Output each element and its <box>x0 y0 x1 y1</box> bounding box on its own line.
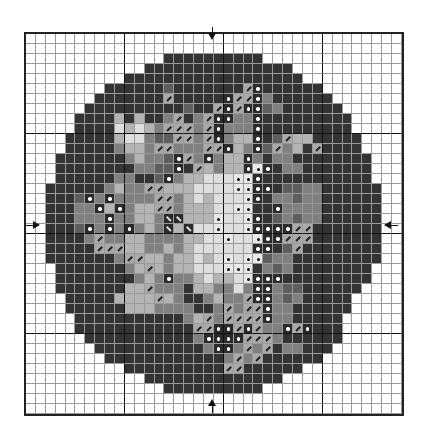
stitch-cell <box>95 174 105 184</box>
stitch-cell <box>253 304 263 314</box>
stitch-cell <box>382 244 392 254</box>
stitch-cell <box>135 194 145 204</box>
stitch-cell <box>135 144 145 154</box>
stitch-cell <box>145 204 155 214</box>
stitch-cell <box>382 404 392 414</box>
stitch-cell <box>174 44 184 54</box>
stitch-cell <box>244 364 254 374</box>
stitch-cell <box>26 404 36 414</box>
stitch-cell <box>105 304 115 314</box>
stitch-cell <box>372 54 382 64</box>
stitch-cell <box>36 404 46 414</box>
stitch-cell <box>26 244 36 254</box>
stitch-cell <box>105 254 115 264</box>
stitch-cell <box>263 284 273 294</box>
stitch-cell <box>75 64 85 74</box>
stitch-cell <box>352 234 362 244</box>
stitch-cell <box>174 124 184 134</box>
stitch-cell <box>204 104 214 114</box>
stitch-cell <box>125 394 135 404</box>
stitch-cell <box>343 284 353 294</box>
stitch-cell <box>224 304 234 314</box>
stitch-cell <box>26 284 36 294</box>
stitch-cell <box>313 144 323 154</box>
stitch-cell <box>56 94 66 104</box>
stitch-cell <box>392 244 402 254</box>
stitch-cell <box>56 64 66 74</box>
stitch-cell <box>253 264 263 274</box>
stitch-cell <box>372 404 382 414</box>
stitch-cell <box>283 34 293 44</box>
stitch-cell <box>224 44 234 54</box>
stitch-cell <box>194 144 204 154</box>
stitch-cell <box>174 244 184 254</box>
stitch-cell <box>372 204 382 214</box>
stitch-cell <box>313 204 323 214</box>
stitch-cell <box>283 264 293 274</box>
stitch-cell <box>46 224 56 234</box>
stitch-cell <box>46 64 56 74</box>
stitch-cell <box>164 344 174 354</box>
stitch-cell <box>263 334 273 344</box>
stitch-cell <box>234 54 244 64</box>
stitch-cell <box>293 374 303 384</box>
stitch-cell <box>26 204 36 214</box>
stitch-cell <box>214 274 224 284</box>
stitch-cell <box>46 204 56 214</box>
stitch-cell <box>214 114 224 124</box>
stitch-cell <box>333 214 343 224</box>
stitch-cell <box>253 394 263 404</box>
stitch-cell <box>293 204 303 214</box>
stitch-cell <box>95 64 105 74</box>
stitch-cell <box>253 164 263 174</box>
stitch-cell <box>214 254 224 264</box>
stitch-cell <box>135 384 145 394</box>
stitch-cell <box>333 244 343 254</box>
stitch-cell <box>263 404 273 414</box>
stitch-cell <box>273 94 283 104</box>
stitch-cell <box>333 204 343 214</box>
stitch-cell <box>303 354 313 364</box>
stitch-cell <box>174 294 184 304</box>
stitch-cell <box>244 304 254 314</box>
stitch-cell <box>323 294 333 304</box>
stitch-cell <box>164 64 174 74</box>
stitch-cell <box>372 244 382 254</box>
stitch-cell <box>323 224 333 234</box>
stitch-cell <box>26 394 36 404</box>
stitch-cell <box>125 254 135 264</box>
stitch-cell <box>56 114 66 124</box>
center-arrow-bottom-icon <box>208 399 216 406</box>
stitch-cell <box>115 184 125 194</box>
stitch-cell <box>145 194 155 204</box>
stitch-cell <box>343 224 353 234</box>
stitch-cell <box>75 364 85 374</box>
stitch-cell <box>155 354 165 364</box>
stitch-cell <box>293 184 303 194</box>
stitch-cell <box>273 334 283 344</box>
stitch-cell <box>56 384 66 394</box>
stitch-cell <box>155 214 165 224</box>
stitch-cell <box>194 314 204 324</box>
stitch-cell <box>184 394 194 404</box>
stitch-cell <box>392 64 402 74</box>
stitch-cell <box>352 264 362 274</box>
stitch-cell <box>125 144 135 154</box>
stitch-cell <box>313 224 323 234</box>
stitch-cell <box>323 114 333 124</box>
stitch-cell <box>372 384 382 394</box>
stitch-cell <box>26 44 36 54</box>
stitch-cell <box>115 334 125 344</box>
stitch-cell <box>382 124 392 134</box>
stitch-cell <box>174 324 184 334</box>
stitch-cell <box>56 184 66 194</box>
stitch-cell <box>115 104 125 114</box>
stitch-cell <box>105 354 115 364</box>
stitch-cell <box>244 284 254 294</box>
stitch-cell <box>115 384 125 394</box>
stitch-cell <box>46 294 56 304</box>
stitch-cell <box>155 224 165 234</box>
stitch-cell <box>115 84 125 94</box>
stitch-cell <box>204 254 214 264</box>
stitch-cell <box>343 274 353 284</box>
